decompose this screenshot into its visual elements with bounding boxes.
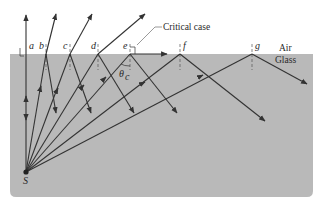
right-angle-mark-e <box>130 47 135 54</box>
label-b: b <box>39 40 44 51</box>
air-label: Air <box>279 43 293 53</box>
label-g: g <box>255 40 260 51</box>
source-label: S <box>23 175 28 186</box>
label-d: d <box>91 40 97 51</box>
glass-region <box>10 54 313 197</box>
label-f: f <box>183 40 187 51</box>
glass-label: Glass <box>275 55 296 65</box>
critical-case-label: Critical case <box>163 22 210 32</box>
label-a: a <box>29 40 34 51</box>
callout-leader <box>137 27 162 45</box>
refraction-diagram: a b c d e f g Critical case Air Glass θ … <box>0 0 320 205</box>
label-e: e <box>123 40 128 51</box>
theta-subscript: c <box>125 71 130 82</box>
theta-label: θ <box>119 68 124 79</box>
label-c: c <box>63 40 68 51</box>
source-point <box>23 169 28 174</box>
